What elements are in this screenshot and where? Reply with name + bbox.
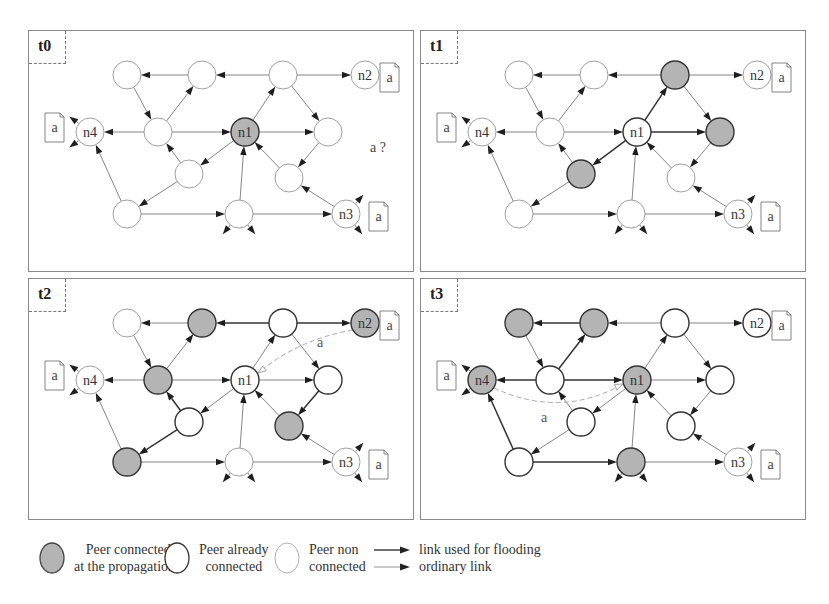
legend-label: Peer already [199, 541, 269, 558]
arrowhead-icon [536, 110, 543, 119]
node-label: n3 [731, 455, 745, 470]
link [355, 201, 357, 203]
link [747, 225, 749, 227]
link [253, 342, 270, 368]
arrowhead-icon [746, 225, 754, 234]
link [645, 342, 662, 368]
link [653, 149, 671, 168]
link [684, 86, 706, 114]
arrowhead-icon [461, 140, 470, 148]
arrowhead-icon [311, 112, 319, 121]
peer-node-A [505, 309, 533, 337]
arrowhead-icon [615, 225, 623, 234]
answer-arrow-icon [614, 384, 623, 390]
arrowhead-icon [746, 473, 754, 482]
bold-node-icon [163, 540, 193, 576]
peer-node-D [536, 118, 564, 146]
node-label: n2 [358, 316, 372, 331]
arrowhead-icon [608, 211, 617, 217]
arrowhead-icon [301, 433, 310, 441]
link [172, 151, 181, 163]
arrowhead-icon [104, 377, 113, 383]
arrowhead-icon [660, 87, 668, 96]
arrowhead-icon [577, 86, 585, 95]
link [261, 397, 279, 416]
panel-t2: an2n4n1n3aaa t2 [28, 278, 414, 520]
panel-label-box: t3 [421, 279, 458, 312]
arrowhead-icon [592, 406, 601, 414]
node-label: n4 [83, 373, 97, 388]
arrowhead-icon [69, 116, 78, 124]
legend-item-links [372, 540, 412, 576]
document-label: a [386, 318, 393, 333]
legend-item-light: Peer non connected [273, 540, 366, 576]
peer-node-D [144, 366, 172, 394]
legend-label: connected [309, 558, 366, 575]
link [99, 153, 121, 201]
link [228, 473, 230, 475]
legend-label: Peer non [309, 541, 366, 558]
link [747, 473, 749, 475]
arrowhead-icon [323, 211, 332, 217]
node-label: n4 [475, 373, 489, 388]
link [747, 449, 749, 451]
gray-node-icon [38, 540, 68, 576]
link [491, 401, 513, 449]
link [304, 143, 319, 161]
link [564, 399, 573, 411]
link [645, 94, 662, 120]
arrowhead-icon [693, 185, 702, 193]
peer-node-B [188, 61, 216, 89]
arrowhead-icon [216, 72, 225, 78]
link [468, 122, 470, 124]
arrowhead-icon [222, 377, 231, 383]
arrowhead-icon [531, 447, 540, 455]
answer-label: a [541, 410, 548, 425]
panel-label-box: t1 [421, 31, 458, 64]
document-label: a [778, 318, 785, 333]
arrowhead-icon [697, 129, 706, 135]
panel-label: t0 [38, 37, 51, 55]
arrowhead-icon [354, 225, 362, 234]
arrowhead-icon [223, 473, 231, 482]
peer-node-E [314, 366, 342, 394]
peer-node-E [706, 366, 734, 394]
arrowhead-icon [703, 112, 711, 121]
document-label: a [443, 368, 450, 383]
link [538, 182, 569, 202]
peer-node-H [113, 448, 141, 476]
arrowhead-icon [354, 473, 362, 482]
arrowhead-icon [592, 158, 601, 166]
arrowhead-icon [558, 391, 566, 400]
link [134, 87, 147, 111]
document-label: a [443, 120, 450, 135]
link [355, 473, 357, 475]
arrowhead-icon [615, 473, 623, 482]
arrowhead-icon [144, 110, 151, 119]
peer-node-B [580, 309, 608, 337]
arrowhead-icon [216, 320, 225, 326]
arrowhead-icon [298, 158, 306, 167]
arrowhead-icon [693, 433, 702, 441]
document-label: a [51, 120, 58, 135]
node-label: n1 [238, 125, 252, 140]
arrowhead-icon [342, 72, 351, 78]
link [696, 391, 711, 409]
node-label: n2 [750, 316, 764, 331]
arrowhead-icon [488, 393, 495, 403]
arrowhead-icon [690, 158, 698, 167]
link [700, 438, 726, 454]
peer-node-F [175, 408, 203, 436]
arrowhead-icon [144, 358, 151, 367]
link [76, 388, 78, 390]
link [207, 388, 233, 408]
link [538, 430, 569, 450]
arrowhead-icon [240, 146, 246, 155]
node-label: n1 [238, 373, 252, 388]
peer-node-F [175, 160, 203, 188]
legend-item-link-labels: link used for flooding ordinary link [419, 540, 541, 575]
arrowhead-icon [632, 394, 638, 403]
peer-node-E [314, 118, 342, 146]
link [632, 403, 635, 448]
link [491, 153, 513, 201]
